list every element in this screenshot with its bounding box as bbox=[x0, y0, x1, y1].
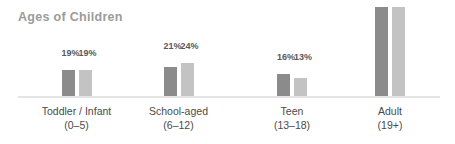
bar-series-b[interactable] bbox=[181, 63, 194, 96]
bar-series-b[interactable] bbox=[294, 78, 307, 96]
plot-area: 19% 19% 21% 24% 16% 13% bbox=[0, 0, 455, 98]
category-label-line2: (19+) bbox=[344, 118, 436, 132]
bar-series-a[interactable] bbox=[375, 7, 388, 96]
category-label-line1: Teen bbox=[245, 104, 339, 118]
category-label-line1: Adult bbox=[344, 104, 436, 118]
bar-group: 21% 24% bbox=[126, 0, 231, 98]
bar-series-a[interactable] bbox=[277, 74, 290, 96]
bar-group: 65% 65% bbox=[344, 0, 436, 98]
bar-pair bbox=[18, 0, 135, 96]
bar-chart: Ages of Children 19% 19% 21% 24% bbox=[0, 0, 455, 144]
category-label-adult: Adult (19+) bbox=[344, 104, 436, 132]
category-label-line2: (6–12) bbox=[126, 118, 231, 132]
bar-series-b[interactable] bbox=[79, 70, 92, 96]
category-label-line2: (0–5) bbox=[18, 118, 135, 132]
category-label-teen: Teen (13–18) bbox=[245, 104, 339, 132]
bar-series-a[interactable] bbox=[62, 70, 75, 96]
category-label-toddler-infant: Toddler / Infant (0–5) bbox=[18, 104, 135, 132]
axis-baseline bbox=[18, 96, 440, 98]
bar-series-b[interactable] bbox=[392, 7, 405, 96]
category-label-line1: School-aged bbox=[126, 104, 231, 118]
category-label-line2: (13–18) bbox=[245, 118, 339, 132]
bar-series-a[interactable] bbox=[164, 67, 177, 96]
bar-group: 16% 13% bbox=[245, 0, 339, 98]
bar-group: 19% 19% bbox=[18, 0, 135, 98]
bar-pair bbox=[245, 0, 339, 96]
bar-pair bbox=[344, 0, 436, 96]
bar-pair bbox=[126, 0, 231, 96]
category-label-school-aged: School-aged (6–12) bbox=[126, 104, 231, 132]
category-label-line1: Toddler / Infant bbox=[18, 104, 135, 118]
